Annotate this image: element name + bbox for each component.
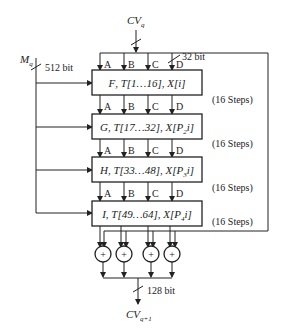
round-1-box: F, T[1…16], X[i] bbox=[92, 70, 202, 95]
svg-text:A: A bbox=[104, 145, 112, 156]
svg-text:B: B bbox=[128, 188, 135, 199]
adder-a: + bbox=[95, 246, 111, 262]
output-width-label: 128 bit bbox=[147, 285, 175, 296]
svg-text:+: + bbox=[148, 249, 154, 260]
m-q-label: Mq bbox=[19, 53, 33, 68]
message-feeds bbox=[36, 83, 92, 213]
svg-text:B: B bbox=[128, 145, 135, 156]
svg-text:A: A bbox=[104, 101, 112, 112]
round-2-steps: (16 Steps) bbox=[212, 138, 253, 150]
register-width-label: 32 bit bbox=[182, 51, 205, 62]
message-width-label: 512 bit bbox=[45, 62, 73, 73]
svg-text:F, T[1…16], X[i]: F, T[1…16], X[i] bbox=[107, 77, 185, 89]
round-4-steps: (16 Steps) bbox=[212, 216, 253, 228]
cv-q1-label: CVq+1 bbox=[126, 308, 152, 323]
svg-text:D: D bbox=[176, 145, 183, 156]
round-3-steps: (16 Steps) bbox=[212, 182, 253, 194]
svg-text:A: A bbox=[104, 59, 112, 70]
svg-text:C: C bbox=[152, 188, 159, 199]
svg-text:C: C bbox=[152, 145, 159, 156]
svg-text:D: D bbox=[176, 101, 183, 112]
adder-outputs bbox=[103, 262, 172, 278]
md5-diagram: CVq A B C D 32 bit Mq 512 bit F, T[1…16]… bbox=[0, 0, 294, 330]
registers-to-round-2: A B C D bbox=[100, 95, 183, 114]
round-1-steps: (16 Steps) bbox=[212, 94, 253, 106]
round-3-box: H, T[33…48], X[P3i] bbox=[92, 157, 202, 182]
svg-text:B: B bbox=[128, 59, 135, 70]
adder-inputs bbox=[100, 226, 175, 247]
round-2-box: G, T[17…32], X[P2i] bbox=[92, 114, 202, 139]
svg-text:B: B bbox=[128, 101, 135, 112]
svg-text:A: A bbox=[104, 188, 112, 199]
svg-text:C: C bbox=[152, 59, 159, 70]
registers-to-round-4: A B C D bbox=[100, 182, 183, 201]
svg-text:+: + bbox=[169, 249, 175, 260]
adder-c: + bbox=[143, 246, 159, 262]
svg-text:C: C bbox=[152, 101, 159, 112]
cv-q-label: CVq bbox=[127, 14, 145, 29]
adder-d: + bbox=[164, 246, 180, 262]
adder-b: + bbox=[116, 246, 132, 262]
svg-text:+: + bbox=[100, 249, 106, 260]
registers-to-round-3: A B C D bbox=[100, 139, 183, 157]
svg-text:D: D bbox=[176, 188, 183, 199]
round-4-box: I, T[49…64], X[P4i] bbox=[92, 201, 202, 226]
svg-text:+: + bbox=[121, 249, 127, 260]
